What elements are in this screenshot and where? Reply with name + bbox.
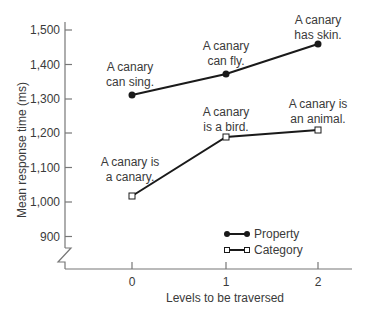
filled-circle-marker-icon [244,231,250,237]
legend-item-category: Category [225,243,303,257]
data-point [315,127,321,133]
legend: Property Category [224,227,303,257]
x-tick-label: 0 [129,275,136,289]
line-chart: Mean response time (ms) 1,500 1,400 1,30… [0,0,372,317]
data-point [129,193,135,199]
x-axis [65,262,352,269]
y-tick-label: 1,500 [30,23,60,37]
open-square-marker-icon [225,248,230,253]
annotation: A canary [295,13,342,27]
annotation: is a bird. [203,120,248,134]
x-tick-label: 2 [315,275,322,289]
annotation: A canary is [101,155,160,169]
y-tick-label: 1,200 [30,126,60,140]
annotation: can sing. [106,75,154,89]
filled-circle-marker-icon [224,231,230,237]
y-tick-labels: 1,500 1,400 1,300 1,200 1,100 1,000 900 [30,23,60,244]
legend-label: Property [254,227,299,241]
y-tick-label: 1,000 [30,195,60,209]
data-point [223,134,229,140]
legend-item-property: Property [224,227,299,241]
y-tick-label: 900 [40,230,60,244]
x-axis-title: Levels to be traversed [166,291,284,305]
legend-label: Category [254,243,303,257]
open-square-marker-icon [245,248,250,253]
annotation: can fly. [207,54,244,68]
y-tick-label: 1,300 [30,92,60,106]
annotation: has skin. [294,28,341,42]
annotation: A canary [107,60,154,74]
property-annotations: A canary can sing. A canary can fly. A c… [106,13,342,89]
annotation: A canary is [289,97,348,111]
annotation: a canary. [106,170,154,184]
annotation: an animal. [290,112,345,126]
annotation: A canary [203,39,250,53]
y-axis [58,22,72,269]
annotation: A canary [203,105,250,119]
y-axis-title: Mean response time (ms) [15,82,29,218]
x-tick-label: 1 [223,275,230,289]
x-tick-labels: 0 1 2 [129,275,322,289]
data-point [223,71,230,78]
y-tick-label: 1,400 [30,58,60,72]
y-tick-label: 1,100 [30,161,60,175]
data-point [129,92,136,99]
